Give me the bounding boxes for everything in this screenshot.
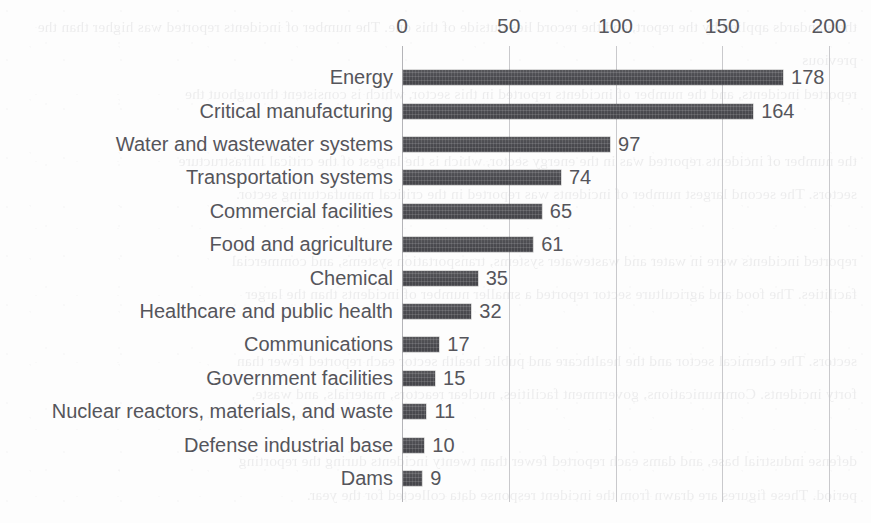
bar-value-label: 74 <box>569 166 591 189</box>
bar[interactable] <box>403 104 753 119</box>
bar-value-label: 32 <box>479 300 501 323</box>
chart-row[interactable]: Water and wastewater systems97 <box>0 128 871 161</box>
category-label: Energy <box>0 66 393 89</box>
category-label: Chemical <box>0 267 393 290</box>
bar-value-label: 15 <box>443 367 465 390</box>
chart-row[interactable]: Government facilities15 <box>0 362 871 395</box>
chart-row[interactable]: Food and agriculture61 <box>0 228 871 261</box>
chart-row[interactable]: Critical manufacturing164 <box>0 94 871 127</box>
chart-row[interactable]: Chemical35 <box>0 261 871 294</box>
bar-value-label: 17 <box>447 333 469 356</box>
axis-tick-label-50: 50 <box>497 14 520 38</box>
category-label: Commercial facilities <box>0 200 393 223</box>
category-label: Government facilities <box>0 367 393 390</box>
bar[interactable] <box>403 471 422 486</box>
bar[interactable] <box>403 237 533 252</box>
chart-row[interactable]: Dams9 <box>0 462 871 495</box>
bar[interactable] <box>403 337 439 352</box>
bar-value-label: 65 <box>550 200 572 223</box>
bar-value-label: 164 <box>761 100 794 123</box>
bar[interactable] <box>403 371 435 386</box>
axis-tick-label-100: 100 <box>598 14 633 38</box>
category-label: Communications <box>0 333 393 356</box>
bar-value-label: 10 <box>432 434 454 457</box>
bar[interactable] <box>403 304 471 319</box>
chart-rows: Energy178Critical manufacturing164Water … <box>0 46 871 516</box>
category-label: Food and agriculture <box>0 233 393 256</box>
bar[interactable] <box>403 271 478 286</box>
category-label: Healthcare and public health <box>0 300 393 323</box>
chart-row[interactable]: Defense industrial base10 <box>0 428 871 461</box>
bar-value-label: 9 <box>430 467 441 490</box>
bar[interactable] <box>403 137 610 152</box>
bar[interactable] <box>403 404 426 419</box>
chart-row[interactable]: Healthcare and public health32 <box>0 295 871 328</box>
bar-value-label: 178 <box>791 66 824 89</box>
category-label: Nuclear reactors, materials, and waste <box>0 400 393 423</box>
chart-row[interactable]: Energy178 <box>0 61 871 94</box>
chart-row[interactable]: Nuclear reactors, materials, and waste11 <box>0 395 871 428</box>
chart-row[interactable]: Transportation systems74 <box>0 161 871 194</box>
category-label: Transportation systems <box>0 166 393 189</box>
category-label: Dams <box>0 467 393 490</box>
bar-value-label: 61 <box>541 233 563 256</box>
bar-value-label: 35 <box>486 267 508 290</box>
bar[interactable] <box>403 70 783 85</box>
bar-value-label: 97 <box>618 133 640 156</box>
value-axis-tick-labels: 050100150200 <box>0 0 871 46</box>
bar-chart-figure: the standards applied by the report, and… <box>0 0 871 523</box>
category-label: Water and wastewater systems <box>0 133 393 156</box>
chart-row[interactable]: Communications17 <box>0 328 871 361</box>
category-label: Defense industrial base <box>0 434 393 457</box>
bar[interactable] <box>403 438 424 453</box>
chart-row[interactable]: Commercial facilities65 <box>0 195 871 228</box>
bar[interactable] <box>403 204 542 219</box>
axis-tick-label-200: 200 <box>811 14 846 38</box>
category-label: Critical manufacturing <box>0 100 393 123</box>
bar-value-label: 11 <box>434 400 455 423</box>
bar[interactable] <box>403 170 561 185</box>
axis-tick-label-150: 150 <box>705 14 740 38</box>
axis-tick-label-0: 0 <box>396 14 408 38</box>
